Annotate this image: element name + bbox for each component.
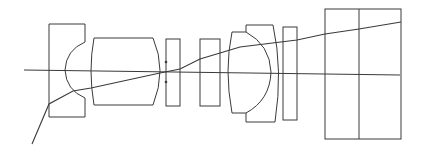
lens-diagram [0,0,430,153]
stop-dot-bottom [165,81,168,84]
principal-ray [32,22,401,144]
optical-axis [24,70,400,75]
stop-dot-top [165,61,168,64]
